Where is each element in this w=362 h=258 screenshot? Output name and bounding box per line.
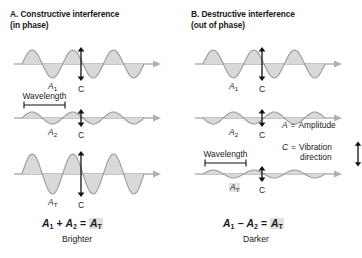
wavelength-marker-b-3: Wavelength <box>191 149 260 167</box>
wavelength-marker-a-2: Wavelength <box>10 91 79 109</box>
equation-equals: = <box>80 218 86 229</box>
amplitude-subscript: 2 <box>235 131 238 138</box>
equation-result-symbol: A <box>271 218 279 229</box>
equation-equals: = <box>261 218 267 229</box>
legend-vibration-direction-arrow <box>352 141 362 167</box>
legend-amplitude-text: Amplitude <box>299 120 336 130</box>
c-label-b-3: C <box>259 186 265 195</box>
legend-vibration-symbol: C <box>282 142 288 152</box>
c-label-a-3: C <box>78 201 84 210</box>
equation-term-b-symbol: A <box>66 218 74 229</box>
equation-result-symbol: A <box>90 218 98 229</box>
c-label-b-2: C <box>259 131 265 140</box>
panel-a-wave-row-3: CAT <box>0 148 181 204</box>
equation-term-a: A1 <box>42 218 53 229</box>
legend: A=AmplitudeC=Vibrationdirection <box>282 120 362 180</box>
equation-result: AT <box>270 218 284 229</box>
amplitude-symbol: A <box>229 81 235 91</box>
equation-term-a-symbol: A <box>42 218 50 229</box>
wave-graphic-a-1 <box>0 38 181 94</box>
equation-term-a: A1 <box>223 218 234 229</box>
amplitude-subscript: T <box>236 186 240 193</box>
amplitude-symbol: A <box>229 127 235 137</box>
amplitude-label-a-2: A2 <box>48 128 57 137</box>
equation-term-b-subscript: 2 <box>73 223 77 230</box>
panel-a-equation: A1+A2=AT <box>42 218 103 231</box>
wavelength-label-b-3: Wavelength <box>191 149 260 159</box>
amplitude-label-a-1: A1 <box>48 82 57 91</box>
legend-vibration-row1: C=Vibration <box>282 142 332 152</box>
panel-a: A. Constructive interference(in phase)CA… <box>0 0 181 258</box>
panel-a-wave-row-1: CA1 <box>0 38 181 94</box>
amplitude-label-b-1: A1 <box>229 82 238 91</box>
equation-term-a-subscript: 1 <box>231 223 235 230</box>
amplitude-symbol: A <box>230 182 236 192</box>
equation-result: AT <box>89 218 103 229</box>
equation-operator: − <box>237 218 243 229</box>
equation-term-a-symbol: A <box>223 218 231 229</box>
panel-b-equation: A1−A2=AT <box>223 218 284 231</box>
legend-vibration-text-line2: direction <box>300 152 332 162</box>
panel-a-wave-row-2: CA2Wavelength <box>0 92 181 148</box>
amplitude-symbol: A <box>48 127 54 137</box>
panel-a-heading-line2: (in phase) <box>10 20 119 31</box>
panel-b-wave-row-1: CA1 <box>181 38 362 94</box>
amplitude-label-a-3: AT <box>48 198 57 207</box>
panel-b-heading-line2: (out of phase) <box>191 20 295 31</box>
panel-b-heading: B. Destructive interference(out of phase… <box>191 9 295 30</box>
amplitude-symbol: A <box>48 81 54 91</box>
wave-graphic-b-1 <box>181 38 362 94</box>
panel-b-equation-caption: Darker <box>243 234 269 244</box>
amplitude-label-b-3: AT <box>229 183 240 192</box>
amplitude-subscript: 1 <box>235 85 238 92</box>
wavelength-label-a-2: Wavelength <box>10 91 79 101</box>
legend-vibration: C=Vibrationdirection <box>282 142 332 163</box>
amplitude-subscript: 2 <box>54 131 57 138</box>
amplitude-subscript: T <box>54 201 58 208</box>
legend-vibration-row2: direction <box>282 152 332 162</box>
equation-result-subscript: T <box>279 223 283 230</box>
amplitude-symbol: A <box>48 197 54 207</box>
legend-vibration-equals: = <box>291 142 296 152</box>
panel-a-equation-caption: Brighter <box>62 234 92 244</box>
equation-term-a-subscript: 1 <box>50 223 54 230</box>
equation-operator: + <box>56 218 62 229</box>
legend-amplitude-symbol: A <box>282 120 288 130</box>
equation-result-subscript: T <box>98 223 102 230</box>
equation-term-b-subscript: 2 <box>254 223 258 230</box>
panel-b-heading-line1: B. Destructive interference <box>191 9 295 20</box>
amplitude-label-b-2: A2 <box>229 128 238 137</box>
panel-a-heading-line1: A. Constructive interference <box>10 9 119 20</box>
wave-graphic-a-3 <box>0 148 181 204</box>
equation-term-b-symbol: A <box>247 218 255 229</box>
legend-amplitude-equals: = <box>291 120 296 130</box>
vibration-direction-arrow-a-3 <box>73 148 89 204</box>
legend-amplitude: A=Amplitude <box>282 120 336 130</box>
wavelength-bracket-b-3 <box>191 159 260 167</box>
panel-a-heading: A. Constructive interference(in phase) <box>10 9 119 30</box>
equation-term-b: A2 <box>66 218 77 229</box>
c-label-a-2: C <box>78 131 84 140</box>
equation-term-b: A2 <box>247 218 258 229</box>
legend-vibration-text-line1: Vibration <box>299 142 332 152</box>
wavelength-bracket-a-2 <box>10 101 79 109</box>
figure-canvas: A. Constructive interference(in phase)CA… <box>0 0 362 258</box>
